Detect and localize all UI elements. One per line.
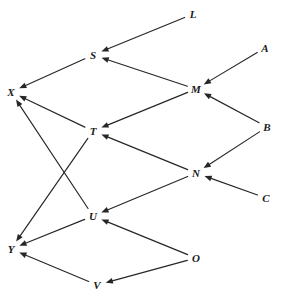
arrowhead-icon [102,57,110,63]
node-label-s: S [90,50,96,61]
arrowhead-icon [204,93,212,99]
arrowhead-icon [101,46,109,51]
edge-a-to-m [204,53,258,85]
arrowhead-icon [204,176,212,181]
edge-n-to-u [101,176,187,212]
node-label-l: L [190,9,197,20]
node-label-c: C [262,193,269,204]
arrowhead-icon [19,240,27,245]
edge-o-to-v [106,260,188,283]
arrowhead-icon [204,162,212,168]
node-label-x: X [7,87,14,98]
node-label-y: Y [8,244,15,255]
edge-o-to-u [101,219,187,254]
edge-m-to-s [102,57,188,86]
arrowhead-icon [101,134,109,139]
arrowhead-icon [19,96,27,102]
node-label-u: U [89,211,97,222]
graph-diagram: LASMXBTNCUYOV [0,0,286,302]
arrowhead-icon [101,219,109,224]
edge-n-to-t [101,134,187,169]
edge-s-to-x [19,59,85,89]
node-label-t: T [90,126,97,137]
arrowhead-icon [204,78,212,84]
node-label-b: B [263,122,270,133]
edge-c-to-n [204,176,257,195]
arrowhead-icon [19,83,27,89]
edge-v-to-y [19,252,88,281]
node-label-n: N [192,168,200,179]
arrowhead-icon [16,234,22,242]
node-label-m: M [191,84,201,95]
edge-t-to-x [19,96,85,127]
arrowhead-icon [106,278,114,284]
arrowhead-icon [19,252,27,257]
graph-edges-layer [0,0,286,302]
arrowhead-icon [16,100,22,108]
arrowhead-icon [101,122,109,127]
edge-b-to-n [204,132,260,168]
edge-m-to-t [101,92,187,127]
edge-b-to-m [204,93,259,123]
edge-l-to-s [101,17,184,51]
node-label-v: V [93,280,100,291]
node-label-o: O [192,253,200,264]
arrowhead-icon [101,207,109,212]
node-label-a: A [261,43,268,54]
